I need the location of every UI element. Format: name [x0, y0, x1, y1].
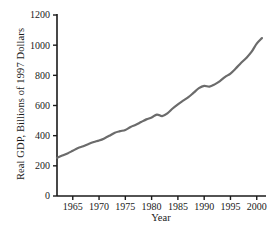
x-tick-label: 1965: [63, 201, 83, 212]
x-tick-label: 1980: [142, 201, 162, 212]
x-tick-label: 1995: [220, 201, 240, 212]
x-tick-label: 1975: [115, 201, 135, 212]
gdp-series-line: [57, 38, 262, 158]
x-tick-label: 1985: [168, 201, 188, 212]
plot-area: 020040060080010001200 196519701975198019…: [0, 0, 272, 236]
y-tick-label: 1200: [30, 9, 50, 20]
y-axis-tick-labels: 020040060080010001200: [30, 9, 50, 201]
x-tick-label: 1970: [89, 201, 109, 212]
y-tick-label: 400: [35, 130, 50, 141]
y-tick-label: 800: [35, 70, 50, 81]
x-tick-label: 2000: [247, 201, 267, 212]
y-tick-label: 0: [45, 190, 50, 201]
y-tick-label: 1000: [30, 40, 50, 51]
gdp-line-chart-figure: Real GDP, Billions of 1997 Dollars 02004…: [0, 0, 272, 236]
x-axis-label: Year: [57, 212, 265, 223]
y-tick-label: 200: [35, 160, 50, 171]
x-axis-tick-labels: 19651970197519801985199019952000: [63, 201, 267, 212]
x-tick-label: 1990: [194, 201, 214, 212]
y-tick-label: 600: [35, 100, 50, 111]
